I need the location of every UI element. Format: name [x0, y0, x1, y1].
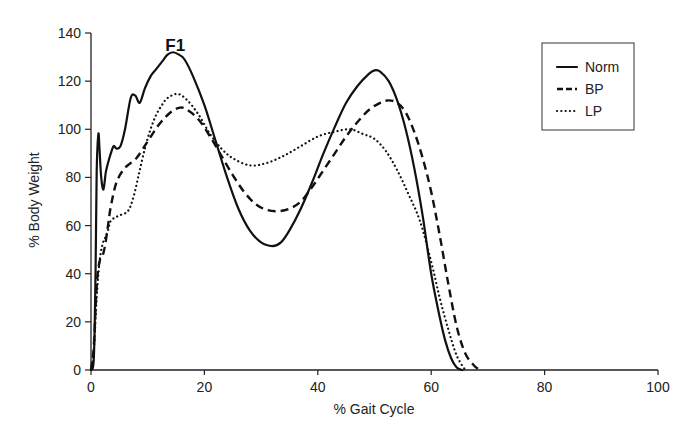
y-axis-title: % Body Weight: [26, 152, 42, 248]
legend: NormBPLP: [542, 43, 634, 130]
gait-force-chart: 020406080100120140 020406080100 F1 % Gai…: [0, 0, 698, 434]
x-tick-label: 0: [87, 379, 95, 395]
y-tick-label: 140: [58, 25, 82, 41]
y-tick-label: 20: [65, 314, 81, 330]
x-tick-label: 60: [423, 379, 439, 395]
y-tick-label: 100: [58, 121, 82, 137]
series-layer: [91, 52, 480, 370]
x-tick-label: 100: [646, 379, 670, 395]
x-tick-label: 80: [537, 379, 553, 395]
peak-annotation-f1: F1: [165, 36, 185, 55]
series-line-norm: [91, 52, 462, 370]
x-axis-title: % Gait Cycle: [334, 401, 415, 417]
x-axis-ticks: 020406080100: [87, 370, 670, 395]
y-tick-label: 80: [65, 169, 81, 185]
x-tick-label: 20: [197, 379, 213, 395]
y-tick-label: 0: [73, 362, 81, 378]
legend-label-norm: Norm: [585, 59, 619, 75]
y-axis-ticks: 020406080100120140: [58, 25, 91, 378]
legend-label-bp: BP: [585, 81, 604, 97]
y-tick-label: 120: [58, 73, 82, 89]
x-tick-label: 40: [310, 379, 326, 395]
y-tick-label: 60: [65, 218, 81, 234]
y-tick-label: 40: [65, 266, 81, 282]
legend-label-lp: LP: [585, 103, 602, 119]
series-line-lp: [91, 94, 465, 370]
